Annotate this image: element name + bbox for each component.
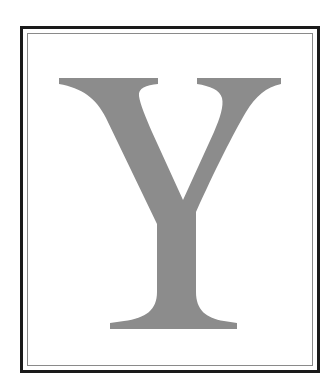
letter-y-shape <box>59 78 281 329</box>
letter-y-glyph <box>0 0 328 392</box>
